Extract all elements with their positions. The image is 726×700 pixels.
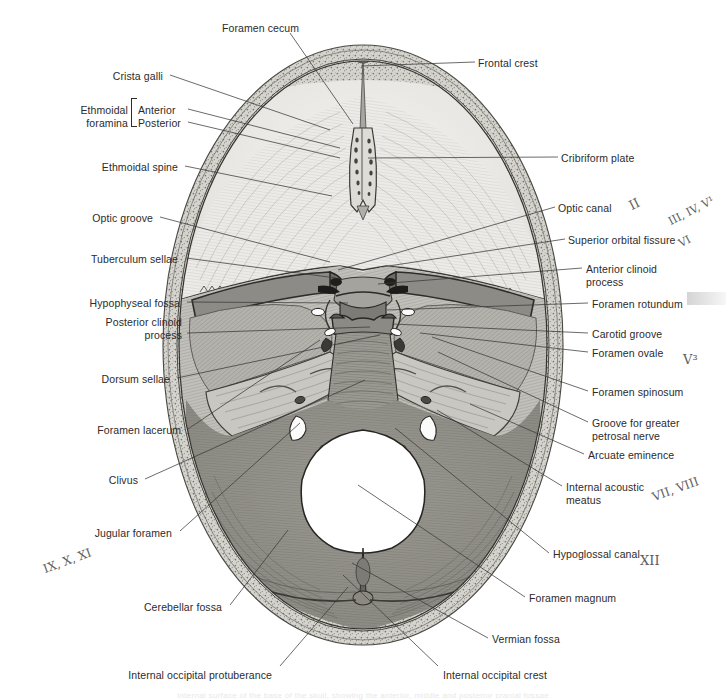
label-arcuate-eminence: Arcuate eminence — [588, 449, 674, 462]
leader-cerebellar-fossa — [230, 530, 288, 605]
leader-foramen-spinosum — [432, 337, 588, 391]
label-superior-orbital-fissure: Superior orbital fissure — [568, 234, 675, 247]
label-ethmoidal-foramina-anterior: Anterior — [138, 104, 176, 117]
figure-canvas: Crista galliEthmoidal foraminaAnteriorPo… — [0, 0, 726, 700]
leader-posterior-clinoid-process — [187, 327, 370, 333]
leader-internal-occipital-protuberance — [280, 587, 348, 666]
label-vermian-fossa: Vermian fossa — [492, 633, 560, 646]
ethmoidal-foramina-bracket — [131, 98, 137, 127]
label-groove-greater-petrosal-nerve: Groove for greater petrosal nerve — [592, 417, 680, 442]
leader-superior-orbital-fissure — [382, 239, 565, 267]
leader-vermian-fossa — [352, 563, 488, 638]
label-carotid-groove: Carotid groove — [592, 328, 662, 341]
label-foramen-rotundum: Foramen rotundum — [592, 298, 683, 311]
label-optic-groove: Optic groove — [92, 212, 153, 225]
leader-cribriform-plate — [368, 157, 558, 158]
label-frontal-crest: Frontal crest — [478, 57, 538, 70]
leader-ethmoidal-foramina-posterior — [188, 122, 340, 158]
label-cerebellar-fossa: Cerebellar fossa — [144, 601, 222, 614]
leader-jugular-foramen — [180, 423, 300, 531]
label-ethmoidal-spine: Ethmoidal spine — [102, 161, 178, 174]
label-internal-occipital-crest: Internal occipital crest — [443, 669, 547, 682]
leader-foramen-rotundum — [387, 303, 588, 310]
label-posterior-clinoid-process: Posterior clinoid process — [106, 316, 182, 341]
leader-optic-canal — [338, 207, 555, 270]
handwritten-cn-v3: V³ — [683, 352, 698, 367]
figure-bottom-caption: Internal surface of the base of the skul… — [0, 691, 726, 700]
leader-optic-groove — [160, 217, 330, 262]
leader-dorsum-sellae — [177, 335, 380, 378]
label-crista-galli: Crista galli — [113, 70, 163, 83]
label-hypoglossal-canal: Hypoglossal canal — [553, 548, 640, 561]
leader-foramen-cecum — [290, 33, 353, 124]
label-ethmoidal-foramina-posterior: Posterior — [138, 117, 181, 130]
leader-carotid-groove — [393, 324, 588, 333]
label-foramen-ovale: Foramen ovale — [592, 347, 663, 360]
label-internal-occipital-protuberance: Internal occipital protuberance — [128, 669, 272, 682]
label-foramen-lacerum: Foramen lacerum — [97, 424, 181, 437]
leader-foramen-lacerum — [188, 340, 320, 429]
label-hypophyseal-fossa: Hypophyseal fossa — [90, 297, 180, 310]
label-anterior-clinoid-process: Anterior clinoid process — [586, 263, 657, 288]
label-dorsum-sellae: Dorsum sellae — [102, 373, 170, 386]
label-cribriform-plate: Cribriform plate — [561, 152, 634, 165]
leader-hypophyseal-fossa — [187, 302, 348, 303]
leader-frontal-crest — [361, 62, 475, 66]
leader-ethmoidal-foramina-anterior — [188, 109, 340, 148]
handwritten-cn-xii: XII — [640, 553, 660, 568]
leader-internal-acoustic-meatus — [437, 410, 562, 486]
label-jugular-foramen: Jugular foramen — [95, 527, 172, 540]
leader-crista-galli — [170, 75, 330, 130]
label-optic-canal: Optic canal — [558, 202, 612, 215]
label-foramen-cecum: Foramen cecum — [222, 22, 299, 35]
label-clivus: Clivus — [109, 474, 138, 487]
leader-hypoglossal-canal — [395, 428, 549, 553]
label-foramen-magnum: Foramen magnum — [529, 592, 616, 605]
leader-anterior-clinoid-process — [378, 268, 582, 284]
label-ethmoidal-foramina: Ethmoidal foramina — [80, 104, 128, 129]
leader-foramen-ovale — [420, 333, 588, 352]
label-foramen-spinosum: Foramen spinosum — [592, 386, 683, 399]
leader-groove-greater-petrosal-nerve — [438, 352, 588, 422]
label-internal-acoustic-meatus: Internal acoustic meatus — [566, 481, 644, 506]
label-tuberculum-sellae: Tuberculum sellae — [91, 253, 178, 266]
leader-tuberculum-sellae — [186, 258, 336, 278]
leader-internal-occipital-crest — [343, 575, 438, 666]
leader-arcuate-eminence — [470, 404, 584, 454]
leader-ethmoidal-spine — [185, 166, 332, 196]
